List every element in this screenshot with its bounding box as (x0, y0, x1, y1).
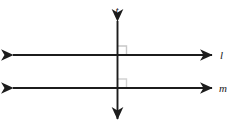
label-transversal-t: t (115, 4, 119, 16)
label-line-l: l (220, 49, 223, 61)
label-line-m: m (219, 82, 227, 94)
right-angle-mark-t-l (118, 46, 127, 55)
right-angle-mark-t-m (118, 79, 127, 88)
geometry-figure-canvas: t l m (0, 0, 232, 128)
right-angle-marks-group (118, 46, 127, 88)
geometry-figure: t l m (0, 0, 232, 128)
